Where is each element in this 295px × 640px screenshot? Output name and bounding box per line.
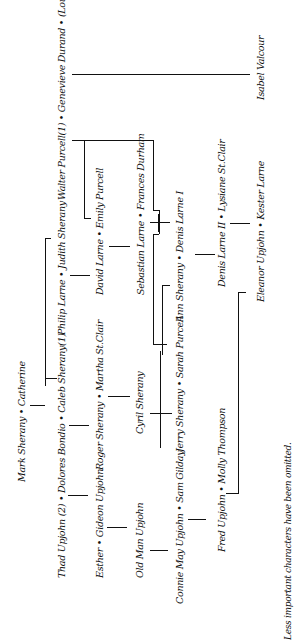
connector-fred-eleanor [238, 292, 239, 493]
connector-thad-esther [68, 495, 88, 496]
connector-cross-v [158, 214, 159, 232]
connector-emily-tick [84, 218, 91, 219]
connector-philip-david [70, 275, 90, 276]
node-cyril: Cyril Sherany [134, 372, 145, 434]
connector-fred-eleanor-tick1 [238, 292, 246, 293]
connector-david-sebastian [109, 246, 130, 247]
node-ann-denis1: Ann Sherany • Denis Larne I [174, 191, 185, 322]
connector-mark-tick [30, 405, 45, 406]
node-roger-martha: Roger Sherany • Martha St.Clair [94, 320, 105, 470]
connector-jerry-bar [150, 413, 172, 414]
node-denis2-lysiane: Denis Larne II • Lysiane St.Clair [216, 139, 227, 287]
node-mark-catherine: Mark Sherany • Catherine [16, 361, 27, 482]
connector-caleb-roger [69, 425, 89, 426]
node-jerry-sarah: Jerry Sherany • Sarah Purcell [174, 317, 185, 452]
connector-philip-bracket [45, 238, 46, 386]
connector-cross [150, 222, 170, 223]
node-eleanor-kester: Eleanor Upjohn • Kester Larne [255, 161, 266, 302]
node-old-man: Old Man Upjohn [134, 503, 145, 578]
node-isabel: Isabel Valcour [255, 36, 266, 100]
node-thad-dolores-caleb: Thad Upjohn (2) • Dolores Bondio • Caleb… [56, 333, 67, 578]
connector-esther-oldman [107, 527, 127, 528]
connector-roger-cyril [108, 396, 130, 397]
connector-philip-tick [45, 238, 51, 239]
node-walter-genevieve-louis: Walter Purcell(1) • Genevieve Durand • (… [56, 0, 67, 200]
connector-ann-tick [162, 285, 170, 286]
connector-oldman-connie [150, 550, 168, 551]
connector-long-left [153, 234, 154, 344]
connector-walter-isabel [72, 74, 250, 75]
connector-jerry-step2 [160, 351, 161, 448]
node-philip-judith: Philip Larne • Judith Sherany [56, 201, 67, 335]
connector-frances-drop [153, 140, 154, 210]
node-sebastian-frances: Sebastian Larne • Frances Durham [135, 133, 146, 295]
node-david-emily: David Larne • Emily Purcell [94, 168, 105, 295]
connector-ann-denis2 [195, 254, 215, 255]
connector-denis2-kester [230, 223, 250, 224]
connector-emily-drop [84, 140, 85, 218]
node-esther-gideon: Esther • Gideon Upjohn [94, 469, 105, 578]
node-connie-sam: Connie May Upjohn • Sam Gilday [174, 451, 185, 604]
connector-fred-eleanor-tick2 [226, 493, 239, 494]
node-fred-molly: Fred Upjohn • Molly Thompson [216, 408, 227, 552]
connector-connie-fred [188, 519, 206, 520]
connector-jerry-step [153, 344, 167, 345]
omission-note: Less important characters have been omit… [283, 442, 294, 640]
